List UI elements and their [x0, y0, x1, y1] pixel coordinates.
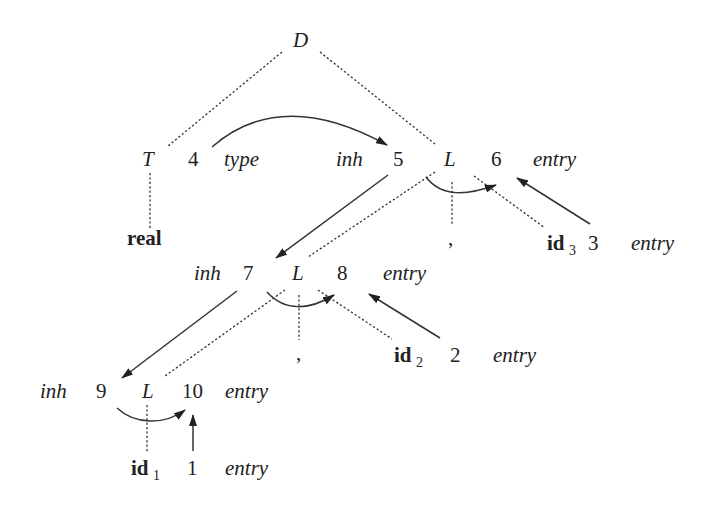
node-T: T: [142, 147, 155, 171]
attr-num-2: 2: [450, 343, 461, 367]
attr-inh-L3: inh: [40, 379, 67, 403]
arrow-5-to-7: [276, 175, 388, 258]
node-id3: id: [547, 231, 565, 255]
arrow-9-to-10: [117, 408, 185, 421]
node-comma-1: ,: [448, 226, 453, 250]
edge-D-L1: [320, 52, 435, 144]
parse-tree-edges: [147, 52, 545, 452]
id2-subscript: 2: [416, 355, 423, 370]
attr-entry-L2: entry: [383, 261, 427, 285]
attr-entry-id1: entry: [225, 456, 269, 480]
attr-entry-id3: entry: [631, 231, 675, 255]
node-id2: id: [394, 343, 412, 367]
arrow-7-to-8: [267, 292, 334, 307]
attr-num-10: 10: [182, 379, 203, 403]
node-L2: L: [291, 261, 304, 285]
node-comma-2: ,: [296, 341, 301, 365]
attr-inh-L2: inh: [194, 261, 221, 285]
attr-entry-L3: entry: [225, 379, 269, 403]
edge-L1-L2: [308, 172, 435, 257]
attr-num-6: 6: [491, 147, 502, 171]
edge-L2-L3: [165, 290, 285, 376]
node-D: D: [292, 28, 308, 52]
attr-num-8: 8: [337, 261, 348, 285]
attr-num-5: 5: [393, 147, 404, 171]
attr-num-4: 4: [188, 147, 199, 171]
edge-L1-id3: [474, 176, 545, 228]
arrow-4-to-5: [212, 116, 387, 147]
attr-entry-id2: entry: [493, 343, 537, 367]
node-real: real: [127, 226, 162, 250]
dependency-graph: D T 4 type real inh 5 L 6 entry , id 3 3…: [0, 0, 723, 510]
id1-subscript: 1: [153, 468, 160, 483]
id3-subscript: 3: [569, 243, 576, 258]
node-id1: id: [131, 456, 149, 480]
attr-num-7: 7: [243, 261, 254, 285]
attr-num-1: 1: [187, 456, 198, 480]
node-L3: L: [141, 379, 154, 403]
attr-type: type: [224, 147, 259, 171]
attr-entry-L1: entry: [533, 147, 577, 171]
edge-D-T: [168, 52, 282, 146]
arrow-3-to-6: [517, 178, 590, 224]
attr-inh-L1: inh: [336, 147, 363, 171]
attr-num-3: 3: [588, 231, 599, 255]
arrow-2-to-8: [369, 294, 440, 338]
attr-num-9: 9: [96, 379, 107, 403]
node-L1: L: [443, 147, 456, 171]
